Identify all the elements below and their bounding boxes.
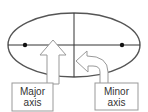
major-axis-arrow-icon <box>40 40 66 84</box>
major-axis-label: Major axis <box>12 86 53 108</box>
minor-axis-label: Minor axis <box>95 86 138 108</box>
focus-right <box>120 43 124 47</box>
minor-axis-arrow-icon <box>76 51 108 84</box>
focus-left <box>23 43 27 47</box>
